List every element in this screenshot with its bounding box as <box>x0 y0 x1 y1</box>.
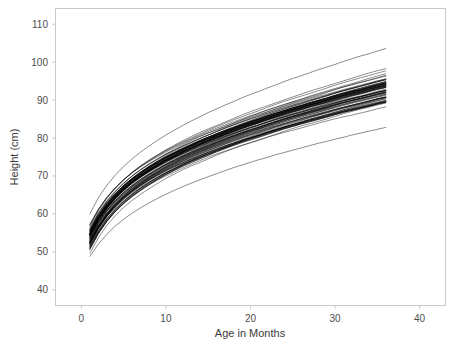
plot-panel-frame <box>56 9 446 306</box>
x-tick-label: 20 <box>245 313 257 324</box>
x-tick-label: 40 <box>414 313 426 324</box>
y-tick-label: 70 <box>37 170 49 181</box>
y-tick-label: 40 <box>37 284 49 295</box>
y-tick-label: 100 <box>31 57 48 68</box>
x-tick-label: 10 <box>160 313 172 324</box>
y-tick-label: 80 <box>37 133 49 144</box>
x-axis-title: Age in Months <box>215 327 286 339</box>
growth-chart: 405060708090100110 010203040 Age in Mont… <box>0 0 458 352</box>
y-tick-label: 90 <box>37 95 49 106</box>
y-tick-label: 60 <box>37 208 49 219</box>
x-tick-label: 0 <box>79 313 85 324</box>
y-tick-label: 110 <box>32 19 48 30</box>
y-tick-label: 50 <box>37 246 49 257</box>
y-axis-title: Height (cm) <box>8 129 20 186</box>
plot-svg: 405060708090100110 010203040 Age in Mont… <box>0 0 458 352</box>
x-tick-label: 30 <box>330 313 342 324</box>
